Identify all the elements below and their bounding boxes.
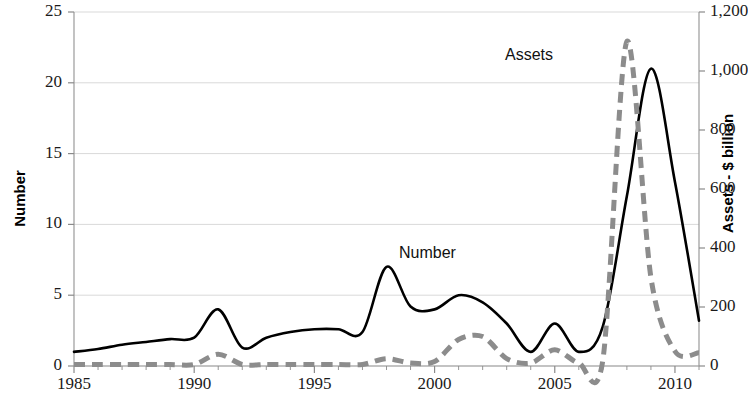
x-axis-tick-label: 2000: [400, 374, 470, 394]
y-axis-right-tick-label: 0: [710, 355, 719, 375]
y-axis-left-tick-label: 5: [8, 284, 62, 304]
y-axis-right-tick-label: 200: [710, 296, 736, 316]
y-axis-right-tick-label: 400: [710, 237, 736, 257]
x-axis-tick-label: 2005: [520, 374, 590, 394]
y-axis-left-tick-label: 10: [8, 213, 62, 233]
y-axis-left-tick-label: 15: [8, 143, 62, 163]
series-line-assets: [74, 41, 699, 383]
y-axis-right-tick-label: 1,000: [710, 60, 748, 80]
y-axis-right-tick-label: 600: [710, 178, 736, 198]
x-axis-tick-label: 1985: [39, 374, 109, 394]
x-axis-tick-label: 1995: [279, 374, 349, 394]
y-axis-left-tick-label: 0: [8, 355, 62, 375]
y-axis-left-tick-label: 25: [8, 1, 62, 21]
x-axis-tick-label: 1990: [159, 374, 229, 394]
y-axis-left-tick-label: 20: [8, 72, 62, 92]
series-paths: [74, 41, 699, 383]
y-axis-right-tick-label: 800: [710, 119, 736, 139]
y-axis-right-tick-label: 1,200: [710, 1, 748, 21]
x-axis-tick-label: 2010: [640, 374, 710, 394]
tick-marks: [68, 12, 705, 373]
